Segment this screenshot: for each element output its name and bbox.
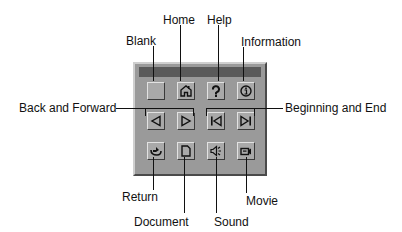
home-icon: [180, 85, 192, 97]
label-movie: Movie: [246, 194, 278, 208]
movie-icon: [240, 145, 252, 157]
leader-bracket-end: [254, 108, 255, 116]
beginning-button[interactable]: [207, 112, 225, 130]
return-icon: [150, 145, 162, 157]
leader-line-back-forward: [116, 108, 194, 109]
label-help: Help: [207, 13, 232, 27]
label-return: Return: [122, 190, 158, 204]
label-back-and-forward: Back and Forward: [19, 101, 116, 115]
document-icon: [180, 145, 192, 157]
label-blank: Blank: [126, 34, 156, 48]
leader-line-blank: [153, 46, 154, 81]
sound-icon: [210, 145, 222, 157]
leader-line-beginning-end: [206, 108, 283, 109]
leader-line-home: [180, 25, 181, 81]
leader-line-sound: [216, 157, 217, 213]
leader-line-information: [243, 47, 244, 81]
end-button[interactable]: [237, 112, 255, 130]
leader-line-help: [218, 25, 219, 81]
help-icon: [210, 85, 222, 97]
forward-icon: [180, 115, 192, 127]
info-icon: [240, 85, 252, 97]
leader-bracket-back: [145, 108, 146, 116]
home-button[interactable]: [177, 82, 195, 100]
label-sound: Sound: [214, 215, 249, 229]
leader-line-movie: [246, 157, 247, 193]
help-button[interactable]: [207, 82, 225, 100]
information-button[interactable]: [237, 82, 255, 100]
label-information: Information: [241, 35, 301, 49]
back-button[interactable]: [147, 112, 165, 130]
leader-line-return: [153, 157, 154, 190]
leader-line-document: [184, 157, 185, 213]
end-icon: [240, 115, 252, 127]
back-icon: [150, 115, 162, 127]
leader-bracket-beginning: [206, 108, 207, 116]
document-button[interactable]: [177, 142, 195, 160]
label-home: Home: [163, 13, 195, 27]
label-beginning-and-end: Beginning and End: [285, 101, 386, 115]
label-document: Document: [134, 215, 189, 229]
leader-bracket-forward: [193, 108, 194, 116]
beginning-icon: [210, 115, 222, 127]
blank-button[interactable]: [147, 82, 165, 100]
return-button[interactable]: [147, 142, 165, 160]
